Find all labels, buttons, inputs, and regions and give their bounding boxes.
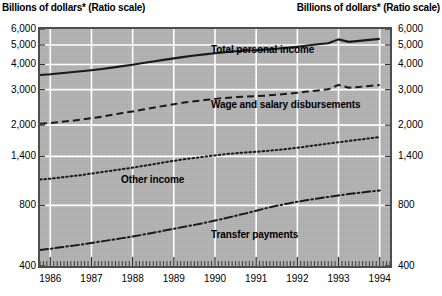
x-axis-tick-1990: 1990: [204, 274, 226, 284]
right-axis-caption: Billions of dollars* (Ratio scale): [297, 2, 440, 14]
y-axis-tick-right-3000: 3,000: [398, 85, 423, 95]
x-axis-tick-1989: 1989: [163, 274, 185, 284]
y-axis-tick-right-6000: 6,000: [398, 24, 423, 34]
y-axis-tick-right-800: 800: [398, 200, 415, 210]
x-axis-tick-1991: 1991: [245, 274, 267, 284]
chart-figure: Billions of dollars* (Ratio scale) Billi…: [0, 0, 442, 296]
x-axis-tick-1986: 1986: [39, 274, 61, 284]
left-axis-caption: Billions of dollars* (Ratio scale): [2, 2, 145, 14]
y-axis-tick-left-5000: 5,000: [11, 40, 36, 50]
y-axis-tick-left-800: 800: [19, 200, 36, 210]
series-label-transfer-payments: Transfer payments: [211, 229, 298, 240]
y-axis-tick-left-4000: 4,000: [11, 59, 36, 69]
y-axis-tick-left-2000: 2,000: [11, 120, 36, 130]
y-axis-tick-left-1400: 1,400: [11, 151, 36, 161]
y-axis-tick-left-6000: 6,000: [11, 24, 36, 34]
x-axis-tick-1994: 1994: [369, 274, 391, 284]
series-label-wage-and-salary-disbursements: Wage and salary disbursements: [211, 99, 361, 110]
x-axis-tick-1987: 1987: [80, 274, 102, 284]
series-label-other-income: Other income: [121, 174, 184, 185]
y-axis-tick-right-400: 400: [398, 261, 415, 271]
y-axis-tick-left-3000: 3,000: [11, 85, 36, 95]
series-label-total-personal-income: Total personal income: [211, 44, 314, 55]
x-axis-tick-1993: 1993: [327, 274, 349, 284]
y-axis-tick-right-4000: 4,000: [398, 59, 423, 69]
y-axis-tick-left-400: 400: [19, 261, 36, 271]
y-axis-tick-right-2000: 2,000: [398, 120, 423, 130]
y-axis-tick-right-1400: 1,400: [398, 151, 423, 161]
x-axis-tick-1988: 1988: [122, 274, 144, 284]
y-axis-tick-right-5000: 5,000: [398, 40, 423, 50]
x-axis-tick-1992: 1992: [286, 274, 308, 284]
